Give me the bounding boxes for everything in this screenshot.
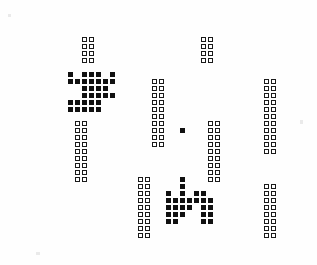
automaton-cell	[271, 135, 276, 140]
automaton-cell	[89, 79, 94, 84]
automaton-cell	[208, 219, 213, 224]
automaton-cell	[82, 93, 87, 98]
automaton-cell	[159, 128, 164, 133]
automaton-cell	[145, 226, 150, 231]
automaton-cell	[75, 163, 80, 168]
automaton-cell	[89, 37, 94, 42]
automaton-cell	[152, 100, 157, 105]
automaton-cell	[215, 128, 220, 133]
automaton-cell	[159, 114, 164, 119]
automaton-cell	[138, 191, 143, 196]
automaton-cell	[166, 198, 171, 203]
automaton-cell	[180, 205, 185, 210]
automaton-cell	[145, 191, 150, 196]
automaton-cell	[208, 163, 213, 168]
screenshot-root	[0, 0, 317, 265]
automaton-cell	[138, 226, 143, 231]
automaton-cell	[75, 156, 80, 161]
automaton-cell	[138, 233, 143, 238]
automaton-cell	[159, 135, 164, 140]
automaton-cell	[271, 107, 276, 112]
automaton-cell	[152, 86, 157, 91]
automaton-cell	[82, 156, 87, 161]
automaton-cell	[110, 72, 115, 77]
automaton-cell	[159, 86, 164, 91]
automaton-cell	[208, 149, 213, 154]
automaton-cell	[201, 37, 206, 42]
automaton-cell	[138, 184, 143, 189]
automaton-cell	[82, 170, 87, 175]
automaton-cell	[180, 184, 185, 189]
automaton-cell	[145, 212, 150, 217]
automaton-cell	[264, 233, 269, 238]
automaton-cell	[103, 86, 108, 91]
automaton-cell	[166, 191, 171, 196]
automaton-cell	[89, 51, 94, 56]
automaton-cell	[145, 198, 150, 203]
automaton-cell	[159, 142, 164, 147]
automaton-cell	[68, 107, 73, 112]
automaton-cell	[271, 149, 276, 154]
automaton-cell	[173, 212, 178, 217]
automaton-cell	[264, 219, 269, 224]
automaton-cell	[75, 177, 80, 182]
automaton-cell	[264, 212, 269, 217]
automaton-cell	[145, 219, 150, 224]
automaton-cell	[82, 121, 87, 126]
automaton-cell	[138, 219, 143, 224]
automaton-cell	[271, 86, 276, 91]
automaton-cell	[75, 107, 80, 112]
automaton-cell	[96, 100, 101, 105]
automaton-cell	[201, 191, 206, 196]
automaton-cell	[264, 114, 269, 119]
automaton-cell	[138, 205, 143, 210]
automaton-cell	[82, 58, 87, 63]
automaton-cell	[152, 142, 157, 147]
automaton-cell	[82, 177, 87, 182]
automaton-cell	[264, 107, 269, 112]
automaton-cell	[201, 51, 206, 56]
automaton-cell	[159, 79, 164, 84]
automaton-cell	[264, 93, 269, 98]
automaton-cell	[110, 79, 115, 84]
automaton-cell	[208, 142, 213, 147]
automaton-cell	[82, 149, 87, 154]
automaton-cell	[82, 107, 87, 112]
automaton-cell	[215, 163, 220, 168]
automaton-cell	[166, 212, 171, 217]
automaton-cell	[215, 142, 220, 147]
automaton-cell	[82, 37, 87, 42]
automaton-cell	[89, 100, 94, 105]
automaton-cell	[145, 205, 150, 210]
automaton-cell	[264, 135, 269, 140]
automaton-cell	[264, 198, 269, 203]
automaton-cell	[68, 100, 73, 105]
automaton-cell	[208, 51, 213, 56]
automaton-cell	[264, 100, 269, 105]
automaton-cell	[89, 93, 94, 98]
automaton-cell	[208, 128, 213, 133]
automaton-cell	[96, 107, 101, 112]
automaton-cell	[145, 184, 150, 189]
automaton-cell	[75, 135, 80, 140]
automaton-cell	[208, 205, 213, 210]
automaton-cell	[264, 86, 269, 91]
automaton-cell	[152, 135, 157, 140]
automaton-cell	[103, 93, 108, 98]
automaton-cell	[208, 198, 213, 203]
automaton-cell	[152, 128, 157, 133]
automaton-cell	[159, 93, 164, 98]
automaton-cell	[138, 198, 143, 203]
automaton-cell	[82, 86, 87, 91]
automaton-cell	[201, 205, 206, 210]
automaton-cell	[82, 79, 87, 84]
automaton-cell	[82, 51, 87, 56]
automaton-cell	[152, 121, 157, 126]
automaton-cell	[89, 58, 94, 63]
automaton-cell	[89, 86, 94, 91]
automaton-cell	[96, 72, 101, 77]
automaton-cell	[152, 114, 157, 119]
automaton-cell	[264, 128, 269, 133]
automaton-cell	[264, 184, 269, 189]
automaton-cell	[89, 107, 94, 112]
